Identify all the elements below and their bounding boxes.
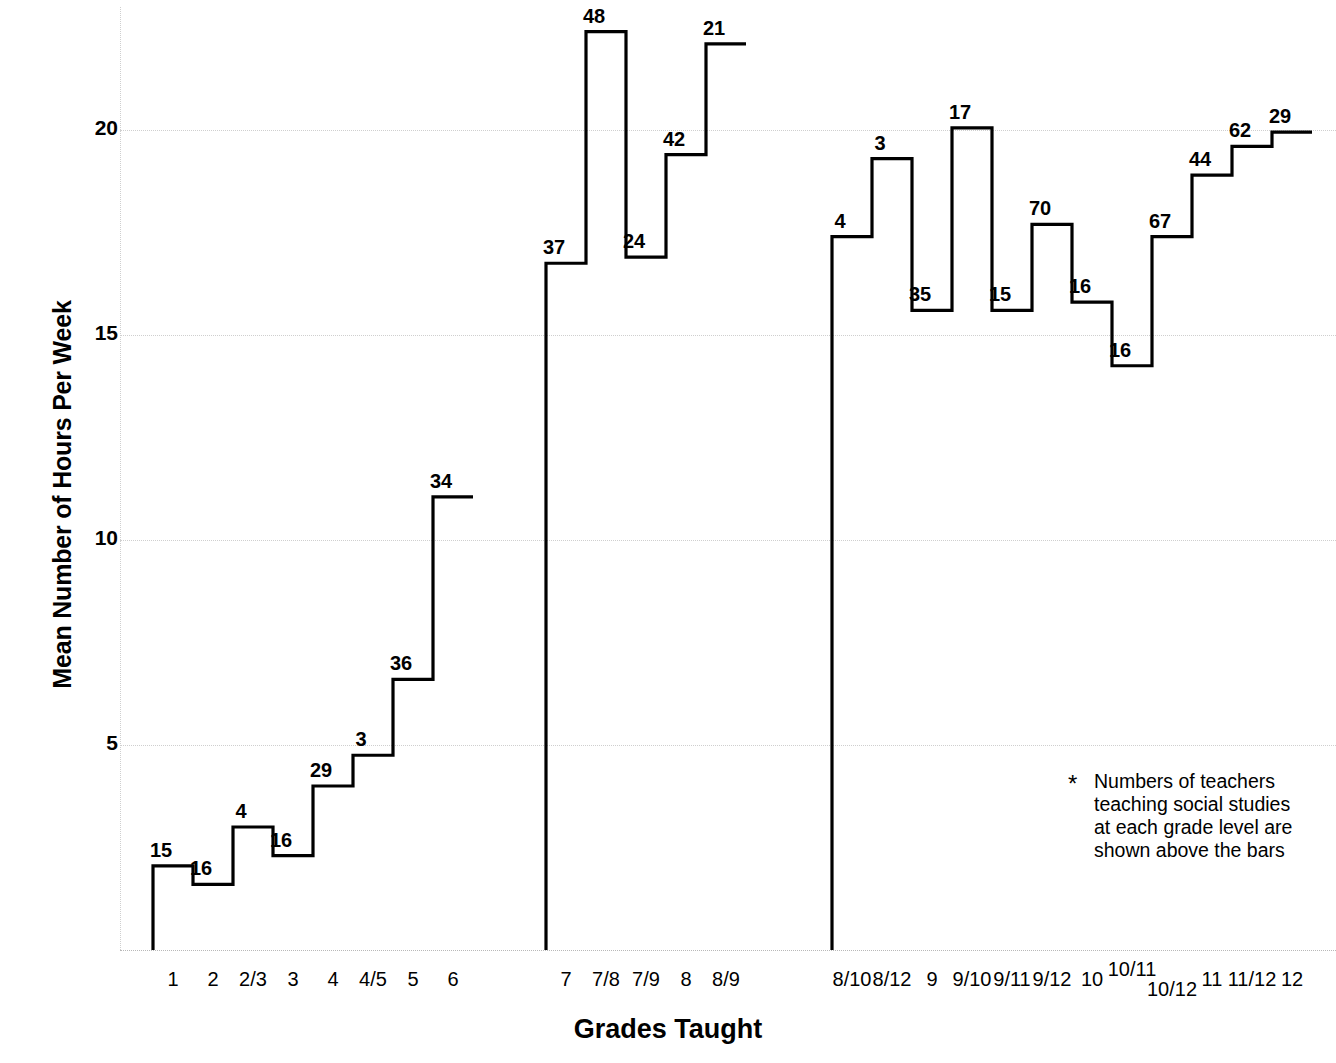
bar-count-label: 70 bbox=[1020, 197, 1060, 220]
bar-outline-middle bbox=[546, 32, 746, 950]
footnote-line-4: shown above the bars bbox=[1094, 839, 1336, 862]
bar-count-label: 24 bbox=[614, 230, 654, 253]
x-axis-title: Grades Taught bbox=[0, 1014, 1336, 1045]
footnote-text: Numbers of teachers teaching social stud… bbox=[1094, 770, 1336, 862]
bars-layer bbox=[0, 0, 1336, 1063]
bar-count-label: 48 bbox=[574, 5, 614, 28]
bar-count-label: 21 bbox=[694, 17, 734, 40]
bar-count-label: 3 bbox=[341, 728, 381, 751]
bar-count-label: 42 bbox=[654, 128, 694, 151]
bar-count-label: 35 bbox=[900, 283, 940, 306]
footnote-line-3: at each grade level are bbox=[1094, 816, 1336, 839]
bar-count-label: 29 bbox=[301, 759, 341, 782]
bar-count-label: 16 bbox=[1060, 275, 1100, 298]
bar-count-label: 37 bbox=[534, 236, 574, 259]
x-tick-label-12: 12 bbox=[1247, 968, 1336, 991]
bar-count-label: 16 bbox=[1100, 339, 1140, 362]
footnote: * Numbers of teachers teaching social st… bbox=[1068, 770, 1336, 862]
bar-count-label: 44 bbox=[1180, 148, 1220, 171]
bar-count-label: 34 bbox=[421, 470, 461, 493]
chart-root: Mean Number of Hours Per Week 2015105 15… bbox=[0, 0, 1336, 1063]
bar-count-label: 16 bbox=[261, 829, 301, 852]
bar-count-label: 29 bbox=[1260, 105, 1300, 128]
bar-count-label: 15 bbox=[980, 283, 1020, 306]
asterisk-icon: * bbox=[1068, 772, 1077, 795]
bar-count-label: 4 bbox=[820, 210, 860, 233]
bar-count-label: 17 bbox=[940, 101, 980, 124]
bar-count-label: 16 bbox=[181, 857, 221, 880]
bar-count-label: 62 bbox=[1220, 119, 1260, 142]
bar-count-label: 3 bbox=[860, 132, 900, 155]
footnote-line-1: Numbers of teachers bbox=[1094, 770, 1336, 793]
bar-count-label: 67 bbox=[1140, 210, 1180, 233]
bar-count-label: 36 bbox=[381, 652, 421, 675]
x-tick-label-6: 6 bbox=[408, 968, 498, 991]
bar-count-label: 15 bbox=[141, 839, 181, 862]
x-tick-label-8-9: 8/9 bbox=[681, 968, 771, 991]
bar-count-label: 4 bbox=[221, 800, 261, 823]
bar-outline-elementary bbox=[153, 497, 473, 950]
footnote-line-2: teaching social studies bbox=[1094, 793, 1336, 816]
